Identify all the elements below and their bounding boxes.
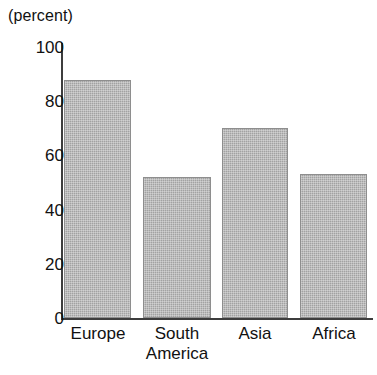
bar-south-america bbox=[143, 177, 211, 318]
category-label-africa: Africa bbox=[292, 324, 376, 344]
category-label-line1: South bbox=[155, 324, 199, 343]
category-label-line1: Africa bbox=[312, 324, 355, 343]
bar-europe bbox=[64, 80, 131, 318]
category-label-south-america: South America bbox=[135, 324, 219, 364]
category-label-asia: Asia bbox=[213, 324, 297, 344]
bar-chart: (percent) 100 80 60 40 20 0 Europe South… bbox=[0, 0, 377, 375]
bar-africa bbox=[300, 174, 367, 318]
bar-asia bbox=[222, 128, 288, 318]
category-label-line1: Asia bbox=[238, 324, 271, 343]
category-label-europe: Europe bbox=[56, 324, 140, 344]
bars-layer bbox=[0, 0, 377, 375]
category-label-line1: Europe bbox=[71, 324, 126, 343]
category-label-line2: America bbox=[135, 344, 219, 364]
